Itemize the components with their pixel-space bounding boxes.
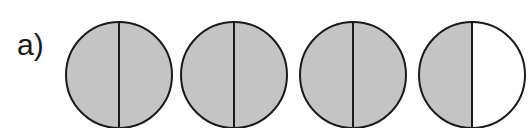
fraction-circle-4 bbox=[419, 22, 525, 128]
fraction-circle-1 bbox=[66, 22, 172, 128]
left-half bbox=[66, 22, 119, 128]
left-half bbox=[419, 22, 472, 128]
right-half bbox=[119, 22, 172, 128]
fraction-circles-diagram bbox=[0, 0, 531, 128]
fraction-circle-3 bbox=[300, 22, 406, 128]
right-half bbox=[234, 22, 287, 128]
fraction-circle-2 bbox=[181, 22, 287, 128]
left-half bbox=[300, 22, 353, 128]
right-half bbox=[353, 22, 406, 128]
right-half bbox=[472, 22, 525, 128]
left-half bbox=[181, 22, 234, 128]
